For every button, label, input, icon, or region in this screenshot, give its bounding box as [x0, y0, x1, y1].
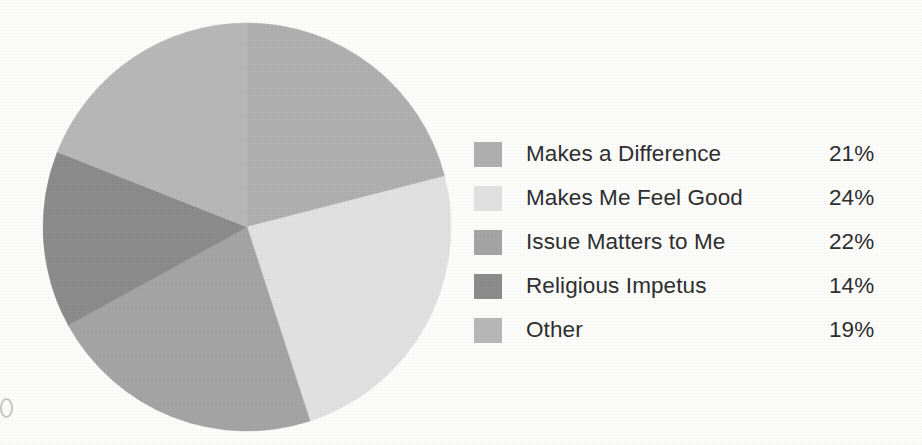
- legend-item-value: 22%: [829, 229, 874, 255]
- legend-color-swatch: [474, 274, 502, 299]
- legend-item-value: 21%: [829, 141, 874, 167]
- legend-item-label: Makes Me Feel Good: [526, 185, 743, 211]
- legend-item[interactable]: Makes a Difference21%: [474, 132, 894, 176]
- legend-color-swatch: [474, 230, 502, 255]
- legend-item-label: Makes a Difference: [526, 141, 721, 167]
- pie-chart: [42, 22, 452, 432]
- legend-item-value: 24%: [829, 185, 874, 211]
- legend-item[interactable]: Other19%: [474, 308, 894, 352]
- legend-item-label: Other: [526, 317, 583, 343]
- chart-page: Makes a Difference21%Makes Me Feel Good2…: [0, 0, 922, 445]
- chart-legend: Makes a Difference21%Makes Me Feel Good2…: [474, 132, 894, 352]
- legend-item[interactable]: Religious Impetus14%: [474, 264, 894, 308]
- legend-color-swatch: [474, 318, 502, 343]
- legend-item-label: Issue Matters to Me: [526, 229, 725, 255]
- legend-item-label: Religious Impetus: [526, 273, 707, 299]
- legend-item[interactable]: Issue Matters to Me22%: [474, 220, 894, 264]
- legend-color-swatch: [474, 142, 502, 167]
- legend-item-value: 14%: [829, 273, 874, 299]
- legend-color-swatch: [474, 186, 502, 211]
- pie-chart-svg: [42, 22, 452, 432]
- legend-item[interactable]: Makes Me Feel Good24%: [474, 176, 894, 220]
- legend-item-value: 19%: [829, 317, 874, 343]
- scan-artifact-mark: [0, 398, 13, 418]
